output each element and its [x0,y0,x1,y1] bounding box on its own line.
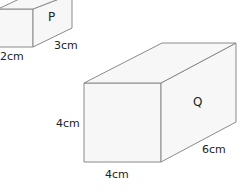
cuboid-p-width-label: 2cm [0,51,24,62]
cuboid-q-height-label: 4cm [56,118,80,129]
cuboid-p-name: P [48,11,55,23]
cuboid-q-name: Q [193,96,202,108]
cuboid-p-front-face [0,9,33,47]
cuboid-q-depth-label: 6cm [202,144,226,155]
cuboid-q-width-label: 4cm [105,169,129,180]
cuboid-q-front-face [84,83,161,162]
cuboids-diagram [0,0,243,192]
cuboid-p-depth-label: 3cm [54,40,78,51]
